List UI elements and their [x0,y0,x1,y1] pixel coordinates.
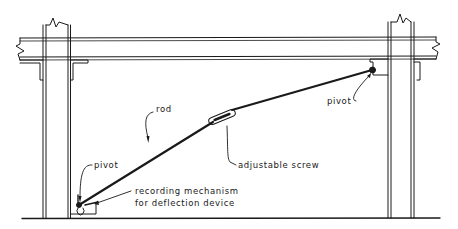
pivot-right-leader [353,75,370,101]
right-column-break [391,14,411,23]
pivot-left-leader [80,165,92,198]
floor-line [22,218,440,219]
recording-box [71,195,99,215]
rod-label: rod [156,104,172,114]
right-pivot-icon [370,67,376,73]
adjustable-screw-label: adjustable screw [238,160,319,170]
recording-leader [97,191,131,203]
right-column [370,14,436,218]
left-pivot-icon [77,203,82,208]
adjustable-screw-leader [227,126,236,165]
left-column-break [46,18,68,27]
rod [79,70,372,205]
recording-label-line1: recording mechanism [135,186,239,196]
left-column [20,18,88,218]
pivot-left-label: pivot [94,160,118,170]
recording-label-line2: for deflection device [135,198,235,208]
beam [16,37,440,60]
rod-leader [146,112,153,138]
pivot-right-label: pivot [327,96,351,106]
